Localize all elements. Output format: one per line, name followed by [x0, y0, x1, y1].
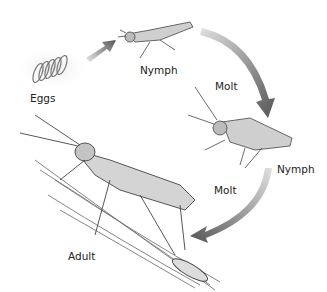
- label-nymph-2: Nymph: [277, 163, 315, 175]
- eggs-illustration: [12, 46, 92, 90]
- label-adult: Adult: [68, 250, 95, 262]
- diagram-canvas: [0, 0, 327, 292]
- arrow-eggs-to-nymph-icon: [86, 40, 116, 62]
- label-nymph-1: Nymph: [140, 64, 178, 76]
- label-eggs: Eggs: [30, 92, 55, 104]
- nymph-small-illustration: [118, 22, 193, 58]
- label-molt-1: Molt: [215, 80, 238, 92]
- adult-grasshopper-illustration: [20, 115, 220, 290]
- life-cycle-diagram: Eggs Nymph Molt Nymph Molt Adult: [0, 0, 327, 292]
- arrow-molt-1-icon: [200, 28, 275, 118]
- nymph-large-illustration: [188, 87, 292, 168]
- arrow-molt-2-icon: [190, 168, 272, 243]
- label-molt-2: Molt: [214, 184, 237, 196]
